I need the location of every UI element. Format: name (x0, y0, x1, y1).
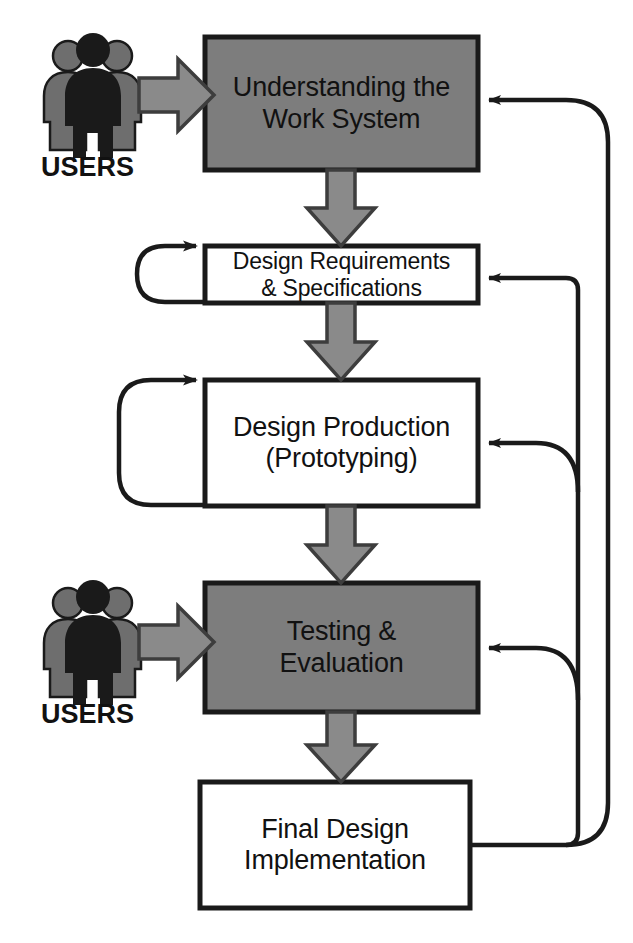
feedback-edge-group (470, 100, 608, 845)
flow-arrow-understanding-to-requirements (307, 170, 375, 246)
feedback-edge-inner-trunk (489, 278, 578, 845)
self-loop-production (119, 380, 205, 505)
process-flow-diagram (0, 0, 633, 943)
users-label-top: USERS (41, 152, 134, 183)
node-box-requirements[interactable] (205, 246, 478, 303)
diagram-canvas: Understanding the Work System Design Req… (0, 0, 633, 943)
flow-arrow-testing-to-final (307, 712, 375, 782)
flow-arrow-requirements-to-production (307, 303, 375, 380)
feedback-edge-final-to-testing (489, 648, 578, 700)
feedback-edge-final-to-production (489, 443, 578, 492)
users-label-bottom: USERS (41, 699, 134, 730)
flow-arrow-production-to-testing (307, 506, 375, 583)
feedback-edge-final-to-understanding (489, 100, 608, 845)
node-box-final[interactable] (200, 782, 470, 908)
self-loop-requirements (137, 246, 205, 302)
users-actor-top[interactable] (44, 33, 214, 158)
self-loop-group (119, 246, 205, 505)
users-actor-bottom[interactable] (44, 580, 214, 705)
node-box-understanding[interactable] (205, 37, 478, 170)
node-box-production[interactable] (205, 380, 478, 506)
node-box-testing[interactable] (205, 583, 478, 712)
